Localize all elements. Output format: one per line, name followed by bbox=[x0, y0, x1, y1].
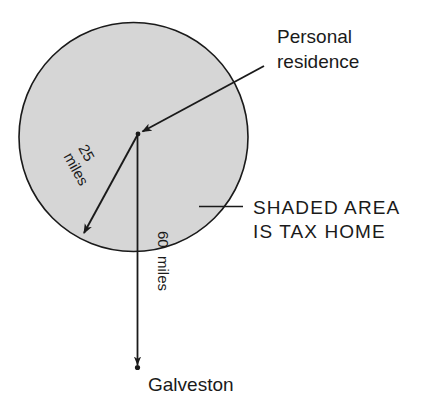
travel-distance-value: 60 bbox=[155, 231, 172, 248]
tax-home-diagram: Personal residence SHADED AREA IS TAX HO… bbox=[0, 0, 426, 417]
personal-residence-label-line1: Personal bbox=[277, 26, 352, 47]
diagram-canvas: Personal residence SHADED AREA IS TAX HO… bbox=[0, 0, 426, 417]
tax-home-circle bbox=[19, 23, 248, 252]
travel-distance-unit: miles bbox=[155, 256, 172, 291]
galveston-point-marker bbox=[135, 365, 140, 370]
shaded-area-label-line2: IS TAX HOME bbox=[253, 221, 386, 242]
personal-residence-label-line2: residence bbox=[277, 51, 359, 72]
galveston-label: Galveston bbox=[148, 374, 234, 395]
travel-distance-group: 60 miles bbox=[155, 231, 172, 291]
shaded-area-label-line1: SHADED AREA bbox=[253, 197, 400, 218]
personal-residence-point-marker bbox=[136, 132, 141, 137]
